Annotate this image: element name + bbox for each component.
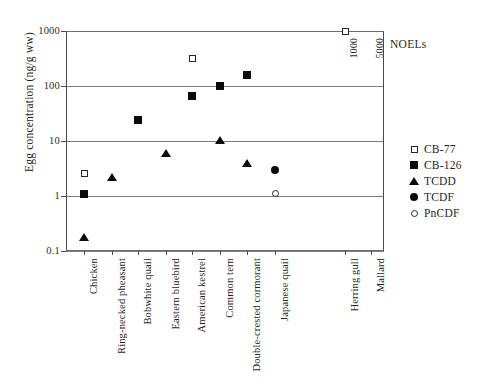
legend-item-cb-126: CB-126 <box>408 157 482 173</box>
filled-circle-icon <box>408 193 420 201</box>
x-tick-mark <box>192 251 193 255</box>
x-axis-label-eastern-bluebird: Eastern bluebird <box>170 258 181 330</box>
data-point-cb-126-bobwhite-quail <box>134 116 142 124</box>
y-tick-mark <box>61 251 66 252</box>
data-point-tcdd-chicken <box>79 233 89 241</box>
noel-title: NOELs <box>390 38 427 50</box>
legend-item-tcdf: TCDF <box>408 189 482 205</box>
legend-label: CB-77 <box>424 143 456 155</box>
legend-label: PnCDF <box>424 207 460 219</box>
data-point-tcdd-ring-necked-pheasant <box>107 173 117 181</box>
x-tick-mark <box>84 251 85 255</box>
y-tick-label-0.1: 0.1 <box>18 246 60 256</box>
gridline-0.1 <box>66 251 384 252</box>
open-circle-icon <box>408 210 420 217</box>
x-tick-mark <box>371 251 372 255</box>
x-axis-label-herring-gull: Herring gull <box>349 258 360 311</box>
data-point-cb-126-chicken <box>80 190 88 198</box>
data-point-cb-126-common-tern <box>216 82 224 90</box>
legend-item-pncdf: PnCDF <box>408 205 482 221</box>
data-point-cb-77-herring-gull <box>342 28 349 35</box>
x-axis-label-double-crested-cormorant: Double-crested cormorant <box>251 258 262 372</box>
x-axis-label-common-tern: Common tern <box>224 258 235 318</box>
data-point-cb-77-american-kestrel <box>189 55 196 62</box>
noel-value-herring-gull: 1000 <box>349 38 359 58</box>
legend-item-cb-77: CB-77 <box>408 141 482 157</box>
data-point-cb-126-double-crested-cormorant <box>243 71 251 79</box>
filled-triangle-icon <box>408 177 420 185</box>
y-tick-mark <box>61 86 66 87</box>
data-point-tcdd-eastern-bluebird <box>161 149 171 157</box>
x-tick-mark <box>247 251 248 255</box>
x-tick-mark <box>112 251 113 255</box>
filled-square-icon <box>408 161 420 169</box>
data-point-pncdf-japanese-quail <box>272 190 279 197</box>
x-axis-label-american-kestrel: American kestrel <box>196 258 207 332</box>
legend-label: TCDD <box>424 175 456 187</box>
x-axis-label-japanese-quail: Japanese quail <box>279 258 290 321</box>
open-square-icon <box>408 146 420 153</box>
legend-label: TCDF <box>424 191 454 203</box>
x-axis-label-chicken: Chicken <box>88 258 99 294</box>
y-tick-mark <box>61 141 66 142</box>
x-tick-mark <box>166 251 167 255</box>
x-axis-label-bobwhite-quail: Bobwhite quail <box>142 258 153 325</box>
x-axis-label-ring-necked-pheasant: Ring-necked pheasant <box>116 258 127 354</box>
data-point-tcdf-japanese-quail <box>271 166 279 174</box>
legend: CB-77CB-126TCDDTCDFPnCDF <box>408 141 482 221</box>
data-point-tcdd-double-crested-cormorant <box>242 159 252 167</box>
y-tick-mark <box>61 31 66 32</box>
x-tick-mark <box>275 251 276 255</box>
y-tick-mark <box>61 196 66 197</box>
data-point-cb-126-american-kestrel <box>188 92 196 100</box>
data-point-cb-77-chicken <box>81 170 88 177</box>
legend-item-tcdd: TCDD <box>408 173 482 189</box>
data-point-tcdd-common-tern <box>215 136 225 144</box>
noel-value-mallard: 5000 <box>375 38 385 58</box>
x-tick-mark <box>345 251 346 255</box>
y-axis-title: Egg concentration (ng/g ww) <box>23 0 35 207</box>
chart-figure: 10001001010.1 Egg concentration (ng/g ww… <box>0 0 484 392</box>
plot-area <box>66 31 384 251</box>
x-axis-label-mallard: Mallard <box>375 258 386 292</box>
x-tick-mark <box>220 251 221 255</box>
legend-label: CB-126 <box>424 159 462 171</box>
x-tick-mark <box>138 251 139 255</box>
